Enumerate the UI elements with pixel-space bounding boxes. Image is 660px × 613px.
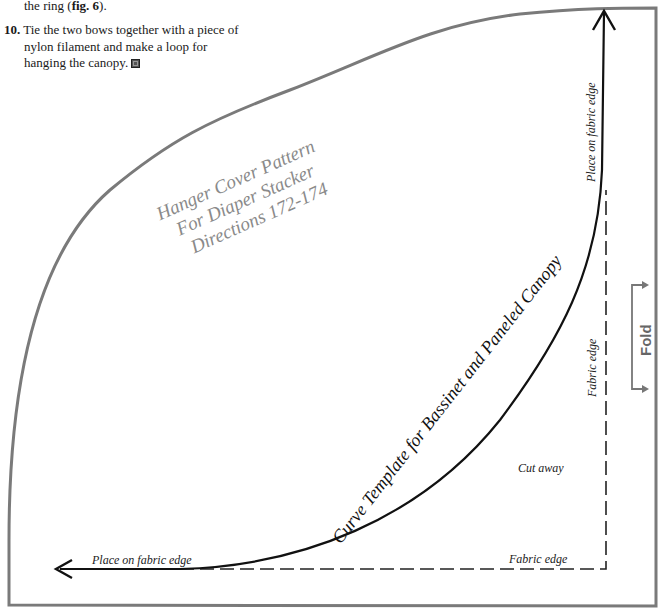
fold-label: Fold: [637, 324, 654, 356]
pattern-drawing: [0, 0, 660, 613]
place-on-fabric-edge-horizontal-label: Place on fabric edge: [92, 553, 192, 568]
hanger-cover-outline: [9, 8, 656, 606]
fabric-edge-horizontal-label: Fabric edge: [509, 552, 567, 567]
cut-away-label: Cut away: [518, 461, 564, 476]
place-on-fabric-edge-vertical-label: Place on fabric edge: [584, 82, 599, 182]
fold-arrow-bottom-icon: [642, 385, 649, 393]
fold-arrow-top-icon: [642, 281, 649, 289]
fabric-edge-vertical-label: Fabric edge: [585, 339, 600, 397]
